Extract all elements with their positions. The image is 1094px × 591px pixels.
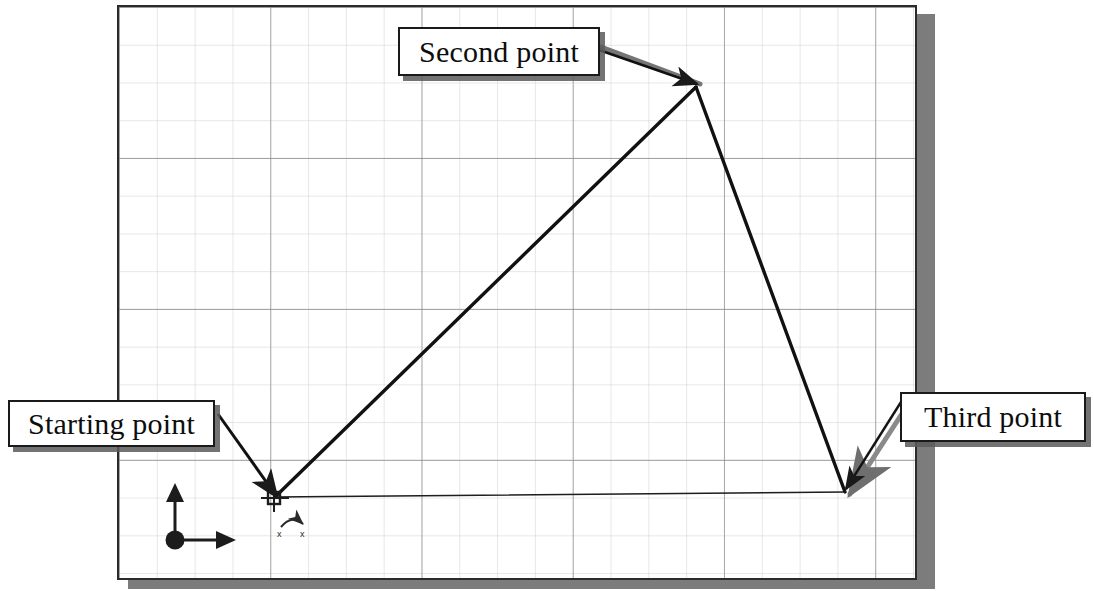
drawing-canvas-stage: x x Second point Starting point Third po… [0, 0, 1094, 591]
drawing-area[interactable] [117, 5, 917, 580]
callout-second-point[interactable]: Second point [398, 27, 600, 76]
callout-second-point-label: Second point [419, 37, 579, 67]
callout-starting-point-label: Starting point [28, 409, 195, 439]
callout-third-point-label: Third point [924, 402, 1062, 432]
callout-third-point[interactable]: Third point [900, 392, 1086, 442]
snap-grid [119, 7, 915, 578]
callout-starting-point[interactable]: Starting point [8, 400, 215, 447]
